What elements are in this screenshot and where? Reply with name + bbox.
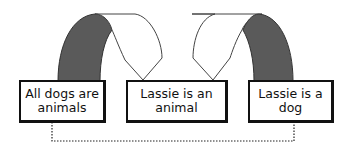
connector-layer [0, 0, 350, 150]
box-premise-minor: Lassie is a dog [248, 80, 334, 123]
dotted-link [52, 122, 294, 141]
box-conclusion-label: Lassie is an animal [140, 87, 212, 115]
box-premise-major-label: All dogs are animals [25, 87, 99, 115]
syllogism-diagram: All dogs are animals Lassie is an animal… [0, 0, 350, 150]
box-conclusion: Lassie is an animal [126, 80, 228, 123]
right-arch-dark-band [243, 14, 293, 81]
box-premise-major: All dogs are animals [19, 80, 106, 123]
box-premise-minor-label: Lassie is a dog [258, 87, 322, 115]
left-arch-dark-band [58, 14, 112, 81]
